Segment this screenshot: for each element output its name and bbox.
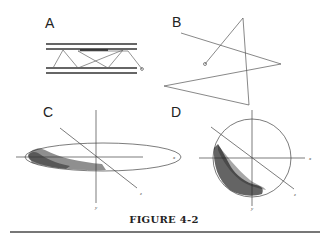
panel-d-x-label: x — [309, 156, 311, 161]
panel-a-label: A — [45, 15, 54, 31]
panel-c-z-label: z — [140, 191, 142, 196]
panel-a-diagram — [46, 44, 143, 73]
panel-c-x-label: x — [173, 155, 175, 160]
panel-b-label: B — [172, 14, 181, 30]
panel-d-stipple — [214, 144, 266, 196]
panel-c-stipple — [28, 148, 106, 170]
panel-c-y-label: y — [95, 205, 97, 210]
panel-d-diagram — [199, 110, 305, 206]
figure-caption: FIGURE 4-2 — [0, 214, 328, 225]
panel-d-label: D — [171, 104, 181, 120]
panel-c-label: C — [43, 104, 53, 120]
bottom-rule — [10, 231, 320, 233]
panel-b-diagram — [164, 18, 281, 105]
panel-d-z-label: z — [294, 192, 296, 197]
panel-d-y-label: y — [251, 206, 253, 211]
panel-c-diagram — [16, 110, 181, 203]
